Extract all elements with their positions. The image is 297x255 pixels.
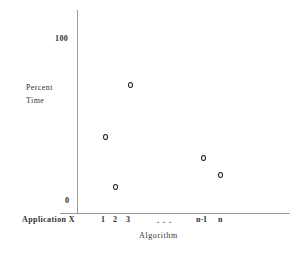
data-point-3 (128, 82, 133, 88)
x-axis-tick-n-minus-1: n-1 (196, 215, 207, 224)
y-axis-tick-0: 0 (65, 196, 69, 205)
x-axis-title: Algorithm (139, 231, 178, 240)
data-point-n (218, 172, 223, 178)
x-axis-tick-n: n (218, 215, 222, 224)
data-point-1 (103, 134, 108, 140)
x-axis-tick-2: 2 (113, 215, 117, 224)
y-axis-tick-100: 100 (55, 34, 68, 43)
x-axis-ellipsis: ... (157, 216, 175, 225)
x-axis-tick-3: 3 (126, 215, 130, 224)
data-point-n-1 (201, 155, 206, 161)
y-axis-title-line-2: Time (26, 96, 44, 105)
y-axis-title-line-1: Percent (26, 83, 53, 92)
y-axis-line (77, 10, 78, 214)
x-axis-tick-1: 1 (101, 215, 105, 224)
application-row-label: Application X (22, 215, 75, 224)
x-axis-line (60, 213, 290, 214)
data-point-2 (113, 184, 118, 190)
chart-canvas: 100 0 Percent Time Application X 1 2 3 .… (0, 0, 297, 255)
